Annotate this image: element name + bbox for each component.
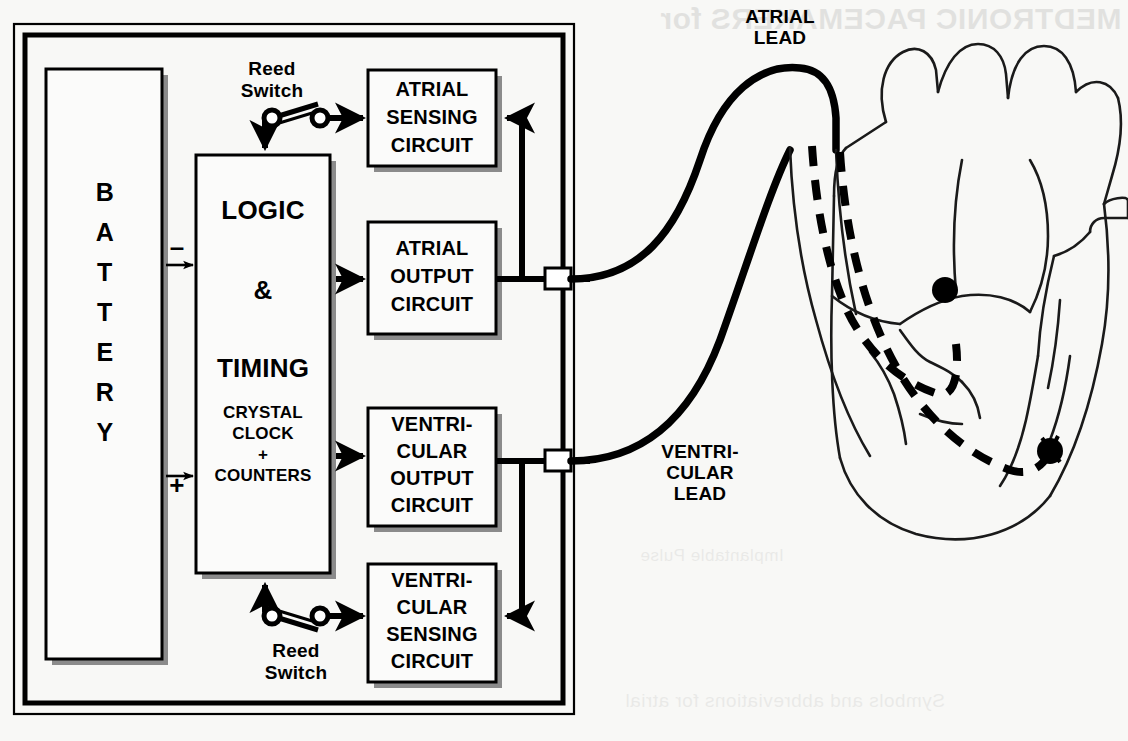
ventricular-electrode-tip bbox=[1037, 436, 1063, 464]
reed-switch-top bbox=[264, 104, 363, 148]
atrial-lead-connector bbox=[545, 268, 571, 289]
ventricular-lead-cable bbox=[571, 150, 790, 461]
atrial-lead-cable bbox=[571, 68, 836, 279]
ventricular-lead-connector bbox=[545, 450, 571, 471]
diagram-canvas: MEDTRONIC PACEMAKERS for Implantable Pul… bbox=[0, 0, 1128, 741]
atrial-lead-bus bbox=[496, 118, 590, 279]
diagram-vector-layer bbox=[0, 0, 1128, 741]
atrial-output-block bbox=[368, 222, 502, 340]
reed-switch-bottom bbox=[264, 585, 363, 630]
ventricular-lead-bus bbox=[496, 461, 590, 616]
logic-timing-block bbox=[196, 155, 336, 579]
intracardiac-lead-paths bbox=[812, 146, 1048, 472]
ventricular-sensing-block bbox=[368, 564, 502, 688]
atrial-sensing-block bbox=[368, 70, 502, 172]
ventricular-output-block bbox=[368, 408, 502, 532]
battery-block bbox=[46, 69, 168, 665]
atrial-electrode-tip bbox=[932, 277, 958, 303]
